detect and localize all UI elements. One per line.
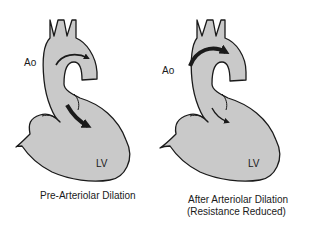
heart-pre-dilation [16, 20, 130, 181]
lv-label-pre: LV [96, 158, 108, 170]
lv-label-after: LV [248, 158, 260, 170]
caption-after-line2: (Resistance Reduced) [187, 206, 286, 218]
heart-outline-after [160, 20, 280, 181]
caption-pre: Pre-Arteriolar Dilation [40, 190, 136, 202]
heart-after-dilation [160, 20, 280, 181]
ao-label-pre: Ao [24, 57, 36, 69]
ao-label-after: Ao [162, 65, 174, 77]
caption-after-line1: After Arteriolar Dilation [188, 194, 288, 206]
heart-outline-pre [16, 20, 130, 181]
